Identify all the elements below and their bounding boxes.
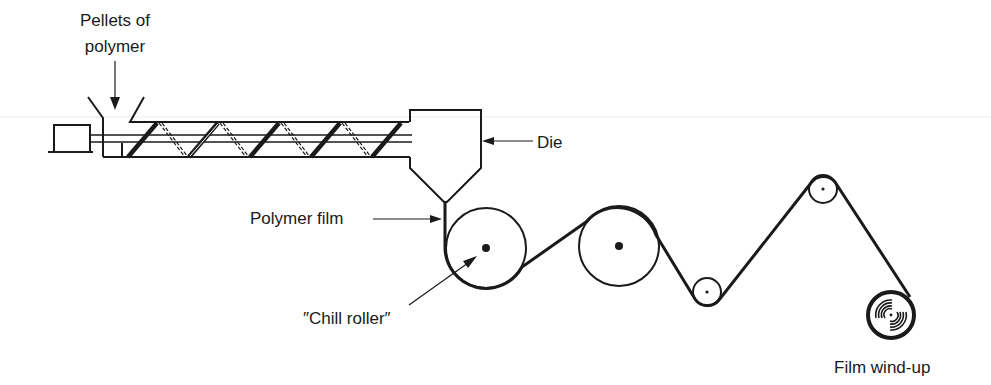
die-label: Die	[537, 133, 563, 152]
screw-shaft	[90, 135, 412, 142]
wind-up-reel	[868, 292, 914, 338]
screw-flight-front	[128, 123, 401, 157]
extrusion-process-diagram: Pellets of polymer	[0, 0, 991, 385]
die	[410, 110, 481, 202]
screw-flight-highlight	[190, 124, 218, 156]
polymer-film-label: Polymer film	[250, 209, 344, 228]
motor-box	[48, 125, 93, 152]
pellets-label-line1: Pellets of	[80, 11, 150, 30]
polymer-film-path	[445, 176, 910, 305]
chill-roller-arrow	[409, 256, 477, 305]
polymer-film-arrow	[373, 215, 442, 223]
pellets-arrow	[110, 61, 120, 110]
pellets-label-line2: polymer	[85, 37, 146, 56]
chill-roller-label: ″Chill roller″	[303, 309, 391, 328]
film-windup-label: Film wind-up	[834, 358, 930, 377]
die-arrow	[482, 137, 533, 145]
